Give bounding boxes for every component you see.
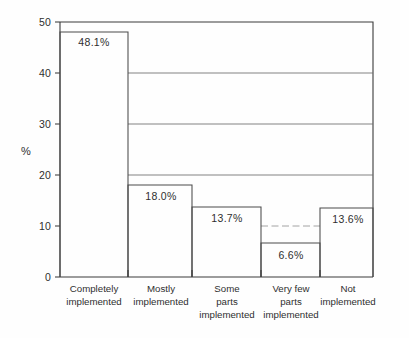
bar-completely-implemented (60, 32, 128, 277)
svg-text:Mostly: Mostly (147, 283, 175, 294)
svg-text:Some: Some (214, 283, 239, 294)
svg-text:implemented: implemented (320, 296, 375, 307)
category-label-some-parts-implemented: Some parts implemented (199, 283, 254, 320)
svg-text:parts: parts (280, 296, 302, 307)
svg-text:Not: Not (340, 283, 355, 294)
gridlines (128, 73, 373, 226)
ytick-label-10: 10 (39, 220, 51, 232)
bar-value-very-few: 6.6% (278, 249, 303, 261)
ytick-label-50: 50 (39, 16, 51, 28)
category-label-not-implemented: Not implemented (320, 283, 375, 307)
bar-value-labels: 48.1% 18.0% 13.7% 6.6% 13.6% (78, 36, 363, 261)
bar-value-not: 13.6% (332, 213, 363, 225)
svg-text:parts: parts (216, 296, 238, 307)
bar-value-completely: 48.1% (78, 36, 109, 48)
ytick-label-0: 0 (45, 271, 51, 283)
category-label-completely-implemented: Completely implemented (66, 283, 121, 307)
svg-text:implemented: implemented (263, 309, 318, 320)
svg-text:implemented: implemented (133, 296, 188, 307)
svg-text:implemented: implemented (66, 296, 121, 307)
bar-value-mostly: 18.0% (145, 190, 176, 202)
chart-canvas: 50 40 30 20 10 0 % 48.1% 18.0% 13.7% (0, 0, 409, 338)
x-axis-category-labels: Completely implemented Mostly implemente… (66, 283, 375, 320)
svg-text:Very few: Very few (272, 283, 310, 294)
category-label-very-few-parts-implemented: Very few parts implemented (263, 283, 318, 320)
svg-text:Completely: Completely (70, 283, 119, 294)
y-axis-ticks (55, 22, 60, 277)
category-label-mostly-implemented: Mostly implemented (133, 283, 188, 307)
bar-value-some-parts: 13.7% (211, 212, 242, 224)
ytick-label-30: 30 (39, 118, 51, 130)
x-axis-ticks (128, 270, 320, 277)
y-axis-title: % (21, 145, 31, 157)
bars-group (60, 32, 373, 277)
y-axis-tick-labels: 50 40 30 20 10 0 (39, 16, 51, 283)
ytick-label-20: 20 (39, 169, 51, 181)
bar-chart-figure: 50 40 30 20 10 0 % 48.1% 18.0% 13.7% (0, 0, 409, 338)
ytick-label-40: 40 (39, 67, 51, 79)
svg-text:implemented: implemented (199, 309, 254, 320)
plot-frame (60, 22, 373, 277)
